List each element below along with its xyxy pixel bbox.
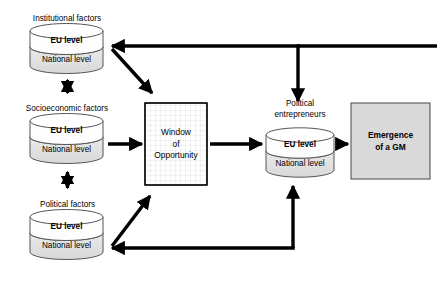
cylinder-political-entrepreneurs — [266, 128, 334, 177]
label-emergence-line1: Emergence — [351, 130, 430, 142]
label-entrepreneurs-eu-level: EU level — [266, 140, 334, 150]
label-socioeconomic-factors: Socioeconomic factors — [8, 103, 126, 114]
cylinder-political-factors — [30, 210, 103, 260]
arrow-political-factors-to-window — [112, 196, 150, 246]
label-institutional-national-level: National level — [30, 55, 103, 65]
label-emergence-line2: of a GM — [351, 142, 430, 154]
label-institutional-eu-level: EU level — [30, 36, 103, 46]
label-socioeconomic-national-level: National level — [30, 145, 103, 155]
label-window-line1: Window — [145, 127, 207, 139]
cylinder-socioeconomic — [30, 114, 103, 164]
arrow-institutional-to-window — [112, 49, 152, 93]
label-political-entrepreneurs-line1: Political — [255, 98, 345, 109]
label-entrepreneurs-national-level: National level — [266, 159, 334, 169]
label-political-entrepreneurs-line2: entrepreneurs — [255, 109, 345, 120]
label-political-factors-eu-level: EU level — [30, 222, 103, 232]
label-institutional-factors: Institutional factors — [12, 13, 122, 24]
label-window-line3: Opportunity — [145, 150, 207, 162]
label-political-factors: Political factors — [20, 199, 115, 210]
label-socioeconomic-eu-level: EU level — [30, 126, 103, 136]
diagram-canvas: Institutional factors EU level National … — [0, 0, 444, 283]
label-window-line2: of — [145, 139, 207, 151]
cylinder-institutional — [30, 24, 103, 74]
label-political-factors-national-level: National level — [30, 241, 103, 251]
arrow-feedback-bottom — [112, 186, 295, 248]
